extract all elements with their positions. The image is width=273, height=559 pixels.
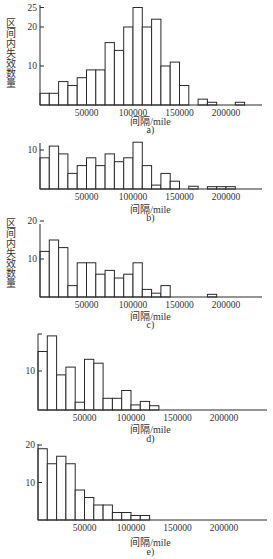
histogram-panel-d: 1050000100000150000200000 间隔/mile d) [0,330,273,440]
histogram-bar [114,278,123,297]
histogram-bar [124,27,133,105]
histogram-bar [131,516,140,521]
histogram-bar [38,352,47,411]
histogram-bar [114,162,123,189]
histogram-bar [105,270,114,297]
histogram-bar [85,498,94,521]
histogram-c-plot: 102050000100000150000200000 [0,230,273,310]
histogram-e-plot: 102050000100000150000200000 [0,440,273,535]
histogram-bar [59,248,68,297]
histogram-bar [47,464,56,520]
histogram-bar [75,490,84,520]
histogram-d-plot: 1050000100000150000200000 [0,330,273,420]
y-tick-label: 10 [26,366,36,376]
histogram-bar [152,19,161,105]
x-tick-label: 200000 [210,523,239,533]
histogram-bar [161,66,170,105]
histogram-bar [49,93,58,105]
histogram-bar [140,516,149,521]
histogram-panel-a: 10202550000100000150000200000 区间内失效数量 间隔… [0,0,273,135]
y-tick-label: 20 [26,440,36,450]
histogram-bar [49,240,58,297]
histogram-bar [40,93,49,105]
histogram-bar [75,402,84,410]
histogram-bar [94,363,103,410]
histogram-bar [161,173,170,189]
histogram-bar [103,398,112,410]
histogram-bar [59,154,68,189]
histogram-bar [77,78,86,105]
histogram-bar [96,70,105,105]
histogram-bar [103,505,112,520]
histogram-bar [87,263,96,297]
histogram-bar [150,406,159,410]
y-tick-label: 10 [28,145,38,155]
histogram-b-plot: 1050000100000150000200000 [0,135,273,210]
y-tick-label: 25 [28,3,38,13]
histogram-bar [47,336,56,410]
histogram-bar [105,154,114,189]
histogram-bar [59,82,68,105]
panel-caption-e: e) [0,546,273,557]
histogram-bar [142,166,151,189]
histogram-bar [152,293,161,297]
x-tick-label: 100000 [117,523,146,533]
x-tick-label: 150000 [163,523,192,533]
histogram-bar [49,146,58,189]
histogram-bar [131,405,140,410]
histogram-bar [77,166,86,189]
histogram-panel-c: 102050000100000150000200000 区间内失效数量 间隔/m… [0,230,273,335]
histogram-bar [140,401,149,410]
histogram-bar [68,86,77,106]
histogram-bar [152,185,161,189]
histogram-bar [57,456,66,520]
y-axis-label: 区间内失效数量 [2,218,17,288]
histogram-bar [133,263,142,297]
histogram-bar [161,286,170,297]
panel-caption-a: a) [0,124,273,135]
histogram-bar [96,166,105,189]
y-tick-label: 10 [26,478,36,488]
histogram-bar [170,181,179,189]
histogram-bar [180,86,189,106]
histogram-bar [114,50,123,105]
histogram-bar [122,513,131,521]
histogram-bar [142,27,151,105]
histogram-bar [112,513,121,521]
histogram-bar [68,286,77,297]
y-tick-label: 20 [28,22,38,32]
histogram-bar [85,359,94,410]
histogram-bar [66,464,75,520]
histogram-bar [40,158,49,189]
histogram-bar [122,391,131,411]
histogram-bar [124,158,133,189]
y-tick-label: 10 [28,61,38,71]
histogram-bar [124,274,133,297]
histogram-a-plot: 10202550000100000150000200000 [0,0,273,115]
histogram-bar [112,398,121,410]
y-tick-label: 20 [28,216,38,226]
histogram-bar [40,251,49,297]
histogram-bar [133,142,142,189]
histogram-bar [38,449,47,520]
histogram-bar [96,274,105,297]
y-tick-label: 10 [28,254,38,264]
histogram-bar [133,8,142,106]
histogram-bar [94,505,103,520]
histogram-bar [142,289,151,297]
panel-caption-c: c) [0,319,273,330]
histogram-bar [77,263,86,297]
histogram-bar [87,70,96,105]
histogram-panel-e: 102050000100000150000200000 间隔/mile e) [0,440,273,559]
histogram-bar [87,158,96,189]
histogram-bar [198,99,207,105]
histogram-bar [170,62,179,105]
histogram-bar [57,375,66,410]
histogram-bar [105,43,114,105]
histogram-panel-b: 1050000100000150000200000 间隔/mile b) [0,135,273,230]
x-tick-label: 50000 [73,523,97,533]
histogram-bar [66,367,75,410]
y-axis-label: 区间内失效数量 [2,18,17,88]
histogram-bar [68,173,77,189]
